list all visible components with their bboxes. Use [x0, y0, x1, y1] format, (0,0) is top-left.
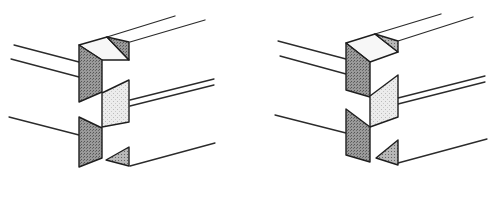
middle-tenon-face: [102, 80, 129, 127]
left-joint: [9, 16, 215, 167]
joint-diagram: [0, 0, 495, 202]
right-joint: [275, 14, 487, 165]
bottom-notch: [376, 140, 398, 165]
middle-tenon-face: [370, 75, 398, 127]
bottom-notch: [106, 147, 129, 166]
lower-front-face: [79, 117, 102, 167]
lower-front-face: [346, 109, 370, 162]
